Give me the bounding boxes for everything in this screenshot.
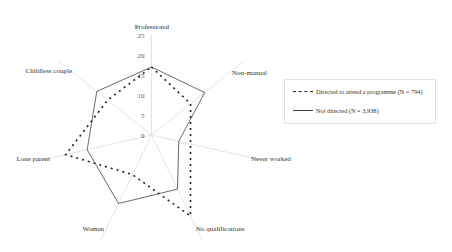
radial-tick-labels: 0510152025 <box>138 32 146 140</box>
data-series <box>66 67 205 216</box>
axis-spoke <box>152 135 267 161</box>
legend-label-not-directed: Not directed (N = 3,938) <box>316 107 378 114</box>
tick-label: 25 <box>138 32 146 40</box>
dashed-line-swatch-icon <box>293 91 313 92</box>
tick-label: 20 <box>138 52 146 60</box>
axis-spokes <box>36 35 266 241</box>
legend-item-directed: Directed to attend a programme (N = 794) <box>293 88 423 95</box>
radar-chart: 0510152025 ProfessionalNon-manualNever w… <box>0 0 452 252</box>
solid-line-swatch-icon <box>293 110 313 111</box>
axis-labels: ProfessionalNon-manualNever workedNo qua… <box>16 23 291 233</box>
series-directed-line <box>66 67 191 216</box>
axis-label-never-worked: Never worked <box>251 155 291 163</box>
axis-spoke <box>152 61 244 135</box>
axis-label-non-manual: Non-manual <box>232 69 267 77</box>
legend-item-not-directed: Not directed (N = 3,938) <box>293 107 378 114</box>
axis-label-lone-parent: Lone parent <box>16 155 50 163</box>
axis-label-no-qualifications: No qualifications <box>196 225 245 233</box>
legend: Directed to attend a programme (N = 794)… <box>284 79 436 124</box>
axis-label-professional: Professional <box>135 23 170 31</box>
series-not-directed-line <box>87 67 205 204</box>
axis-spoke <box>100 135 151 241</box>
tick-label: 10 <box>138 92 146 100</box>
legend-label-directed: Directed to attend a programme (N = 794) <box>316 88 423 95</box>
axis-label-childless-couple: Childless couple <box>26 67 72 75</box>
tick-label: 0 <box>141 132 145 140</box>
axis-spoke <box>36 135 151 161</box>
tick-label: 5 <box>141 112 145 120</box>
axis-label-woman: Woman <box>82 225 104 233</box>
